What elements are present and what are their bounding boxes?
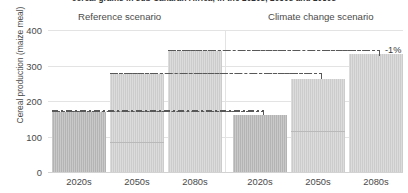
y-axis-title: Cereal production (maize meal) (15, 0, 25, 140)
connector-line-2050s (110, 73, 322, 74)
connector-tick-2050s (321, 73, 322, 79)
bar-reference-2020s[interactable] (52, 112, 106, 172)
scenario-header-reference: Reference scenario (78, 11, 161, 22)
bar-climate-change-2020s[interactable] (233, 115, 287, 172)
plot-area: 400 300 200 100 0 (48, 30, 403, 172)
bar-climate-marker (291, 131, 345, 132)
annotation-percent-2080s: -1% (385, 45, 401, 55)
connector-line-2020s (52, 111, 264, 112)
connector-tick-2020s (263, 111, 264, 116)
x-label-climate-change-2020s: 2020s (247, 176, 273, 187)
x-label-climate-change-2050s: 2050s (305, 176, 331, 187)
y-tick-label-0: 0 (37, 167, 42, 178)
x-label-reference-2080s: 2080s (182, 176, 208, 187)
x-label-reference-2050s: 2050s (124, 176, 150, 187)
bar-reference-marker (110, 111, 164, 112)
y-tick-label-400: 400 (26, 25, 42, 36)
bar-reference-2080s[interactable] (168, 51, 222, 172)
bar-reference-marker (110, 142, 164, 143)
y-tick-label-100: 100 (26, 131, 42, 142)
x-label-reference-2020s: 2020s (66, 176, 92, 187)
bar-reference-2050s[interactable] (110, 74, 164, 172)
scenario-header-climate-change: Climate change scenario (268, 11, 374, 22)
bar-climate-change-2080s[interactable] (349, 54, 403, 172)
bar-climate-change-2050s[interactable] (291, 79, 345, 172)
y-tick-label-200: 200 (26, 96, 42, 107)
gridline-0: 0 (48, 172, 403, 173)
chart-container: cereal grains in sub-Saharan Africa, in … (0, 0, 408, 193)
y-tick-label-300: 300 (26, 60, 42, 71)
connector-line-2080s (168, 50, 380, 51)
group-separator (225, 30, 226, 172)
x-label-climate-change-2080s: 2080s (363, 176, 389, 187)
chart-title: cereal grains in sub-Saharan Africa, in … (0, 0, 408, 4)
connector-tick-2080s (379, 50, 380, 56)
